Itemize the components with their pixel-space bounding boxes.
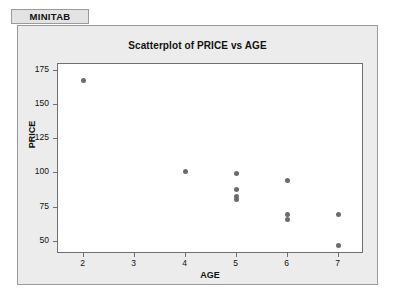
y-tick-label: 100: [23, 167, 49, 176]
x-tick-label: 7: [328, 259, 348, 268]
x-tick-label: 6: [277, 259, 297, 268]
y-tick-label: 125: [23, 133, 49, 142]
x-tick-label: 5: [226, 259, 246, 268]
data-point: [234, 171, 239, 176]
y-tick-label: 75: [23, 202, 49, 211]
plot-area: [58, 64, 362, 252]
y-tick-label: 150: [23, 99, 49, 108]
x-tick-mark: [134, 253, 135, 257]
x-tick-label: 4: [175, 259, 195, 268]
x-tick-label: 3: [124, 259, 144, 268]
chart-title: Scatterplot of PRICE vs AGE: [18, 40, 377, 51]
plot-frame: [57, 63, 363, 253]
x-tick-mark: [185, 253, 186, 257]
y-tick-label: 175: [23, 65, 49, 74]
data-point: [285, 217, 290, 222]
data-point: [234, 187, 239, 192]
data-point: [183, 169, 188, 174]
y-tick-label: 50: [23, 236, 49, 245]
minitab-tab[interactable]: MINITAB: [11, 9, 89, 24]
data-point: [81, 78, 86, 83]
minitab-tab-label: MINITAB: [30, 12, 71, 22]
graph-panel: Scatterplot of PRICE vs AGE PRICE 507510…: [17, 25, 378, 285]
x-tick-mark: [83, 253, 84, 257]
x-tick-label: 2: [73, 259, 93, 268]
data-point: [234, 197, 239, 202]
data-point: [285, 178, 290, 183]
data-point: [336, 243, 341, 248]
data-point: [285, 212, 290, 217]
x-tick-mark: [236, 253, 237, 257]
x-axis-title: AGE: [57, 271, 363, 280]
x-tick-mark: [287, 253, 288, 257]
data-point: [336, 212, 341, 217]
x-tick-mark: [338, 253, 339, 257]
